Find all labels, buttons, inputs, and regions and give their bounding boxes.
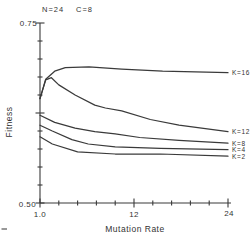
title-c-value: C=8 xyxy=(76,5,93,14)
fitness-vs-mutation-rate-chart: K=16K=12K=8K=4K=2 N=24 C=8 0.75 0.50 1.0… xyxy=(0,0,251,235)
series-line-k16 xyxy=(40,67,228,99)
x-axis-label: Mutation Rate xyxy=(105,224,164,234)
chart-plot-area: K=16K=12K=8K=4K=2 xyxy=(36,23,251,208)
series-line-k4 xyxy=(40,125,228,150)
y-axis-label: Fitness xyxy=(4,107,14,138)
x-tick-label-24: 24 xyxy=(224,209,234,218)
series-line-k12 xyxy=(40,78,228,132)
scanned-figure-page: K=16K=12K=8K=4K=2 N=24 C=8 0.75 0.50 1.0… xyxy=(0,0,251,235)
title-n-value: N=24 xyxy=(42,5,64,14)
y-axis-bottom-tick-label: 0.50 xyxy=(19,200,36,209)
x-tick-label-12: 12 xyxy=(129,210,139,219)
y-axis-top-tick-label: 0.75 xyxy=(20,19,37,28)
x-tick-label-1: 1.0 xyxy=(34,210,46,219)
series-line-k8 xyxy=(40,115,228,143)
series-line-k2 xyxy=(40,137,228,156)
series-label-k2: K=2 xyxy=(232,153,246,160)
series-label-k16: K=16 xyxy=(232,69,250,76)
series-label-k12: K=12 xyxy=(232,128,250,135)
